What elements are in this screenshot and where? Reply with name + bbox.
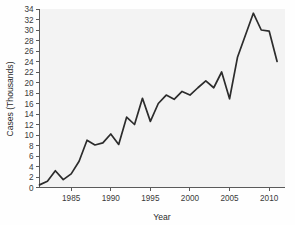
x-axis-ticks [71, 188, 269, 192]
y-tick-label: 4 [29, 163, 34, 172]
y-tick-label: 22 [24, 68, 34, 77]
x-tick-label: 2005 [220, 194, 239, 203]
y-tick-label: 18 [24, 89, 34, 98]
y-tick-label: 2 [29, 173, 34, 182]
x-tick-label: 1995 [141, 194, 160, 203]
y-tick-label: 32 [24, 16, 34, 25]
y-tick-label: 12 [24, 121, 34, 130]
y-tick-label: 0 [29, 184, 34, 193]
y-tick-label: 34 [24, 5, 34, 14]
line-chart: 0246810121416182022242628303234 19851990… [0, 0, 295, 225]
x-tick-label: 1990 [102, 194, 121, 203]
chart-figure: 0246810121416182022242628303234 19851990… [0, 0, 295, 225]
x-axis-title: Year [153, 212, 171, 222]
x-tick-label: 2000 [181, 194, 200, 203]
y-tick-label: 6 [29, 152, 34, 161]
y-tick-label: 8 [29, 142, 34, 151]
y-tick-label: 24 [24, 58, 34, 67]
y-tick-label: 10 [24, 131, 34, 140]
y-tick-label: 30 [24, 26, 34, 35]
y-tick-label: 20 [24, 79, 34, 88]
y-axis-tick-labels: 0246810121416182022242628303234 [24, 5, 34, 193]
y-tick-label: 16 [24, 100, 34, 109]
x-axis-tick-labels: 198519901995200020052010 [62, 194, 279, 203]
y-axis-title: Cases (Thousands) [5, 61, 15, 136]
x-tick-label: 2010 [260, 194, 279, 203]
y-axis-ticks [36, 9, 40, 188]
y-tick-label: 26 [24, 47, 34, 56]
x-tick-label: 1985 [62, 194, 81, 203]
y-tick-label: 14 [24, 110, 34, 119]
y-tick-label: 28 [24, 37, 34, 46]
